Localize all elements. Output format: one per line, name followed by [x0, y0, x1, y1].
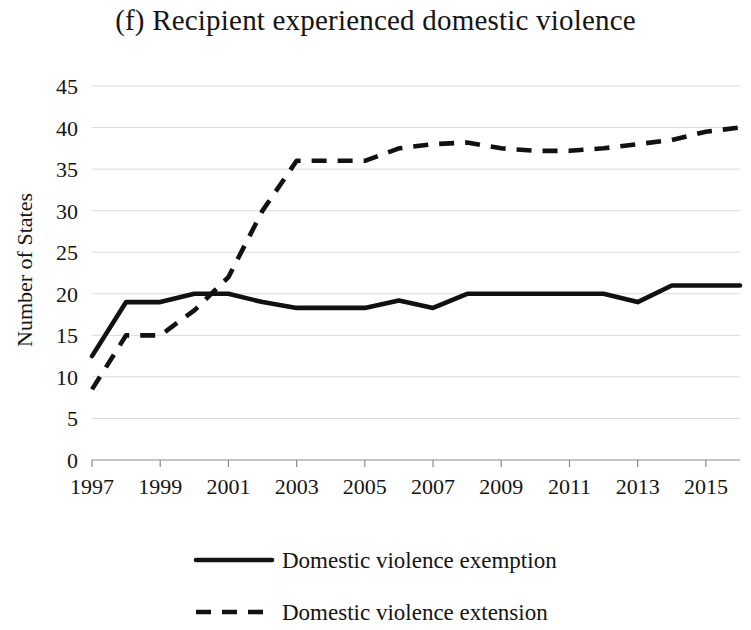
y-axis-title: Number of States [12, 193, 37, 347]
y-tick-labels-group: 051015202530354045 [56, 74, 78, 473]
line-chart-plot: 051015202530354045 199719992001200320052… [0, 0, 751, 630]
x-tick-label: 2003 [275, 474, 319, 499]
x-tick-label: 2011 [548, 474, 591, 499]
x-tick-label: 2001 [206, 474, 250, 499]
x-tick-label: 2007 [411, 474, 455, 499]
y-tick-label: 30 [56, 199, 78, 224]
y-tick-label: 25 [56, 240, 78, 265]
y-tick-label: 45 [56, 74, 78, 99]
legend-label-extension: Domestic violence extension [282, 600, 548, 625]
y-tick-label: 35 [56, 157, 78, 182]
x-tick-label: 1997 [70, 474, 114, 499]
x-tick-label: 2005 [343, 474, 387, 499]
chart-legend: Domestic violence exemption Domestic vio… [196, 548, 557, 625]
y-tick-label: 20 [56, 282, 78, 307]
series-line-domestic-violence-exemption [92, 285, 740, 356]
x-tick-label: 1999 [138, 474, 182, 499]
tickmarks-group [92, 460, 706, 467]
chart-figure: (f) Recipient experienced domestic viole… [0, 0, 751, 630]
legend-label-exemption: Domestic violence exemption [282, 548, 557, 573]
x-tick-label: 2015 [684, 474, 728, 499]
y-tick-label: 40 [56, 116, 78, 141]
y-tick-label: 0 [67, 448, 78, 473]
x-tick-label: 2009 [479, 474, 523, 499]
y-tick-label: 10 [56, 365, 78, 390]
gridlines-group [92, 86, 740, 418]
y-tick-label: 5 [67, 406, 78, 431]
x-tick-labels-group: 1997199920012003200520072009201120132015 [70, 474, 728, 499]
series-line-domestic-violence-extension [92, 128, 740, 390]
y-tick-label: 15 [56, 323, 78, 348]
x-tick-label: 2013 [616, 474, 660, 499]
